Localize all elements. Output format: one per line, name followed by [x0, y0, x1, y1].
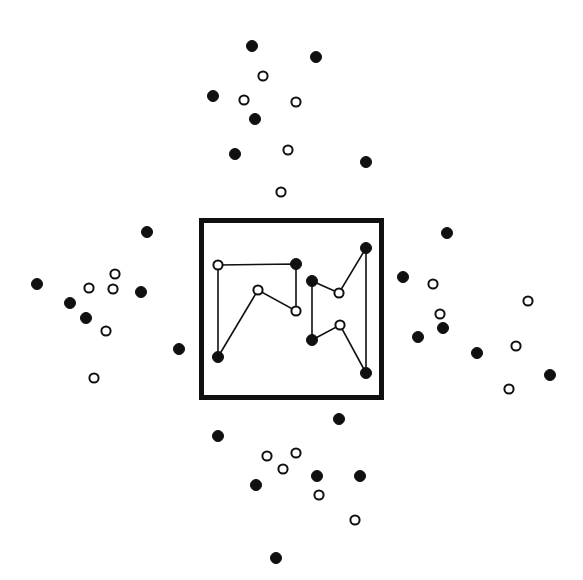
data-point-outside-open-10 [428, 279, 437, 288]
data-point-outside-open-14 [504, 384, 513, 393]
data-point-outside-open-19 [350, 515, 359, 524]
data-point-outside-filled-5 [361, 157, 372, 168]
data-point-outside-filled-2 [208, 91, 219, 102]
data-point-outside-open-5 [110, 269, 119, 278]
data-point-outside-filled-13 [413, 332, 424, 343]
data-point-outside-filled-18 [334, 414, 345, 425]
data-point-outside-open-17 [278, 464, 287, 473]
data-point-inside-filled-1 [213, 352, 224, 363]
data-point-outside-filled-12 [81, 313, 92, 324]
figure-canvas [0, 0, 583, 580]
data-point-outside-filled-7 [442, 228, 453, 239]
data-point-outside-filled-4 [230, 149, 241, 160]
data-point-outside-open-1 [239, 95, 248, 104]
data-point-outside-open-4 [276, 187, 285, 196]
data-point-outside-open-9 [89, 373, 98, 382]
data-point-outside-open-11 [523, 296, 532, 305]
data-point-outside-filled-9 [398, 272, 409, 283]
data-point-inside-filled-0 [291, 259, 302, 270]
data-point-outside-filled-0 [247, 41, 258, 52]
data-point-inside-filled-2 [307, 276, 318, 287]
point-layer [32, 41, 556, 564]
data-point-inside-filled-5 [361, 368, 372, 379]
data-point-outside-open-2 [291, 97, 300, 106]
data-point-outside-open-0 [258, 71, 267, 80]
data-point-inside-open-1 [253, 285, 262, 294]
data-point-outside-filled-3 [250, 114, 261, 125]
data-point-outside-filled-15 [174, 344, 185, 355]
data-point-outside-open-18 [314, 490, 323, 499]
data-point-outside-filled-17 [545, 370, 556, 381]
data-point-outside-filled-19 [213, 431, 224, 442]
data-point-outside-filled-10 [136, 287, 147, 298]
data-point-outside-open-8 [101, 326, 110, 335]
data-point-outside-filled-16 [472, 348, 483, 359]
path-right-path [312, 248, 366, 373]
data-point-outside-filled-21 [355, 471, 366, 482]
data-point-outside-filled-6 [142, 227, 153, 238]
data-point-inside-open-0 [213, 260, 222, 269]
data-point-outside-open-15 [262, 451, 271, 460]
data-point-outside-filled-1 [311, 52, 322, 63]
data-point-outside-open-12 [435, 309, 444, 318]
data-point-outside-filled-20 [312, 471, 323, 482]
scatter-plot-svg [0, 0, 583, 580]
data-point-outside-open-16 [291, 448, 300, 457]
data-point-inside-open-4 [335, 320, 344, 329]
data-point-outside-filled-23 [271, 553, 282, 564]
data-point-outside-open-7 [108, 284, 117, 293]
data-point-outside-open-3 [283, 145, 292, 154]
data-point-outside-filled-11 [65, 298, 76, 309]
data-point-inside-open-3 [334, 288, 343, 297]
data-point-inside-filled-3 [361, 243, 372, 254]
data-point-outside-open-13 [511, 341, 520, 350]
data-point-outside-filled-14 [438, 323, 449, 334]
path-left-path [218, 264, 296, 357]
data-point-outside-filled-8 [32, 279, 43, 290]
data-point-outside-open-6 [84, 283, 93, 292]
data-point-outside-filled-22 [251, 480, 262, 491]
data-point-inside-filled-4 [307, 335, 318, 346]
data-point-inside-open-2 [291, 306, 300, 315]
